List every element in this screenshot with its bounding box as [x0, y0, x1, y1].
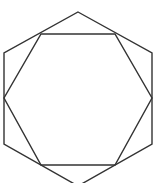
inner-hexagon	[4, 34, 152, 165]
hexagon-diagram	[0, 0, 157, 183]
outer-hexagon	[4, 12, 152, 183]
